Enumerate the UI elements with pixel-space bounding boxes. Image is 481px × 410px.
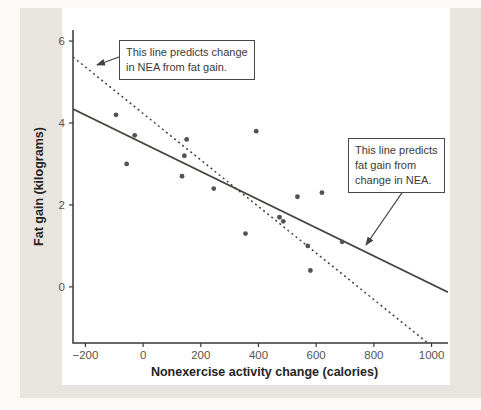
callout-text-line: fat gain from <box>355 158 438 173</box>
callout-text-line: This line predicts change <box>126 45 248 60</box>
callout-text-line: This line predicts <box>355 143 438 158</box>
y-axis-tick-label: 0 <box>59 281 65 293</box>
callout-text-line: change in NEA. <box>355 173 438 188</box>
callout-arrow-to-solid-line <box>366 187 406 245</box>
scatter-point <box>277 215 282 220</box>
x-axis-tick-label: 200 <box>191 349 210 361</box>
x-axis-tick-label: 0 <box>140 349 146 361</box>
fat-on-nea-regression-line <box>73 109 448 292</box>
scatter-point <box>308 268 313 273</box>
scatter-point <box>320 190 325 195</box>
x-axis-tick-label: 800 <box>364 349 383 361</box>
y-axis-tick-label: 4 <box>59 117 66 129</box>
scatter-point <box>243 231 248 236</box>
y-axis-tick-label: 2 <box>59 199 65 211</box>
scatter-point <box>180 174 185 179</box>
scatter-point <box>184 137 189 142</box>
scatter-point <box>182 153 187 158</box>
scatter-point <box>340 239 345 244</box>
y-axis-title: Fat gain (kilograms) <box>32 127 46 246</box>
scatter-point <box>124 162 129 167</box>
scatter-point <box>305 244 310 249</box>
scatter-point <box>254 129 259 134</box>
scatter-point <box>295 194 300 199</box>
scatter-point <box>114 112 119 117</box>
scatter-point <box>132 133 137 138</box>
callout-nea-from-fat: This line predicts change in NEA from fa… <box>119 40 255 80</box>
scatter-point <box>211 186 216 191</box>
x-axis-tick-label: −200 <box>72 349 98 361</box>
scatter-point <box>281 219 286 224</box>
y-axis-tick-label: 6 <box>59 35 65 47</box>
x-axis-tick-label: 400 <box>249 349 268 361</box>
callout-arrow-to-dashed-line <box>97 57 119 65</box>
x-axis-title: Nonexercise activity change (calories) <box>151 365 378 379</box>
x-axis-tick-label: 1000 <box>419 349 445 361</box>
x-axis-tick-label: 600 <box>307 349 326 361</box>
callout-fat-from-nea: This line predicts fat gain from change … <box>348 138 445 193</box>
callout-text-line: in NEA from fat gain. <box>126 60 248 75</box>
